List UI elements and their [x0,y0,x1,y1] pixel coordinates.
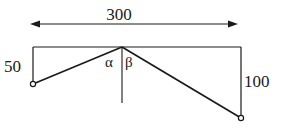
span-dimension-arrow [30,21,238,28]
left-height-label: 50 [4,58,21,75]
frame-diagram: 300 50 100 α β [0,0,281,132]
right-pin-joint-icon [238,115,243,120]
right-member-line [122,47,241,118]
right-height-label: 100 [244,73,270,90]
span-dimension-label: 300 [106,6,132,23]
angle-alpha-label: α [105,55,113,70]
dimension-arrowhead-right-icon [228,21,238,28]
dimension-arrowhead-left-icon [30,21,40,28]
angle-beta-label: β [125,55,133,70]
diagram-canvas [0,0,281,132]
left-pin-joint-icon [30,81,35,86]
